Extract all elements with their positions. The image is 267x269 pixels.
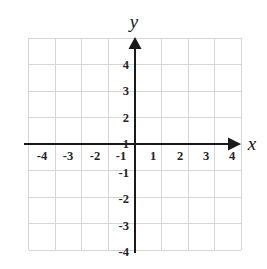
x-tick-labels: -4 -3 -2 -1 1 2 3 4: [37, 149, 236, 163]
y-tick--1: -1: [119, 166, 129, 180]
x-tick--3: -3: [63, 149, 73, 163]
y-axis-arrow-icon: [129, 37, 142, 49]
y-tick-1: 1: [123, 137, 129, 151]
x-tick-4: 4: [229, 149, 236, 163]
coordinate-plane-svg: -4 -3 -2 -1 1 2 3 4 4 3 2 1 -1 -2 -3 -4 …: [0, 0, 267, 269]
x-tick-2: 2: [177, 149, 183, 163]
x-tick--1: -1: [116, 149, 126, 163]
x-tick--2: -2: [90, 149, 100, 163]
y-tick-2: 2: [123, 111, 129, 125]
x-axis-label: x: [247, 133, 257, 154]
y-tick-3: 3: [123, 84, 129, 98]
y-tick--3: -3: [119, 219, 129, 233]
y-axis-label: y: [128, 11, 139, 32]
y-tick--4: -4: [119, 245, 130, 259]
coordinate-plane-figure: -4 -3 -2 -1 1 2 3 4 4 3 2 1 -1 -2 -3 -4 …: [0, 0, 267, 269]
y-tick--2: -2: [119, 192, 129, 206]
x-tick-1: 1: [150, 149, 156, 163]
y-tick-4: 4: [123, 58, 130, 72]
x-tick-3: 3: [203, 149, 209, 163]
x-tick--4: -4: [37, 149, 48, 163]
